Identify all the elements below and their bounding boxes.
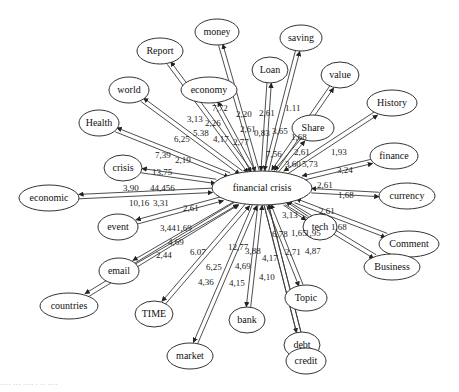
edge-to-money	[223, 44, 259, 170]
edge-weight-label: 4,17	[213, 134, 229, 144]
node-saving: saving	[280, 25, 322, 51]
node-label: financial crisis	[233, 182, 292, 193]
edge-weight-label: 4,69	[235, 261, 251, 271]
node-label: Topic	[295, 292, 318, 303]
edge-weight-label: 0,83	[254, 128, 270, 138]
edge-weight-label: 4,87	[305, 246, 321, 256]
edge-weight-label: 4,10	[259, 272, 275, 282]
node-label: market	[176, 350, 204, 361]
node-crisis: crisis	[104, 155, 142, 181]
edge-weight-label: 3,13	[187, 114, 203, 124]
node-label: Comment	[389, 238, 429, 249]
figure-caption: ···· ··· ···· · ·· ····	[0, 380, 459, 392]
edge-weight-label: 2,20	[236, 109, 252, 119]
node-label: bank	[237, 314, 256, 325]
node-money: money	[195, 19, 239, 45]
edge-from-time	[165, 206, 249, 304]
node-label: money	[203, 26, 230, 37]
edge-weight-label: 3,60	[285, 159, 301, 169]
node-label: countries	[51, 300, 88, 311]
edge-weight-label: 2,61	[317, 180, 333, 190]
edge-weight-label: 2,61	[319, 206, 335, 216]
node-topic: Topic	[285, 285, 327, 311]
edge-weight-label: 2,44	[156, 250, 172, 260]
node-event: event	[98, 214, 138, 240]
edge-weight-label: 2,77	[233, 137, 249, 147]
edge-weight-label: 4,17	[262, 253, 278, 263]
node-label: event	[107, 221, 129, 232]
node-email: email	[99, 258, 139, 284]
node-label: Business	[374, 261, 410, 272]
edge-weight-label: 3,90	[123, 183, 139, 193]
node-label: crisis	[112, 162, 133, 173]
node-label: economic	[30, 192, 69, 203]
node-label: world	[117, 84, 140, 95]
node-business: Business	[364, 254, 420, 280]
node-label: economy	[191, 84, 228, 95]
edge-weight-label: 3,24	[337, 165, 353, 175]
edge-weight-label: 3,13	[282, 210, 298, 220]
edge-weight-label: 1,68	[331, 222, 347, 232]
node-bank: bank	[229, 307, 265, 333]
node-credit: credit	[286, 348, 326, 374]
node-label: credit	[295, 355, 318, 366]
edge-weight-label: 3,31	[153, 198, 169, 208]
node-label: saving	[288, 32, 314, 43]
edge-weight-label: 2,71	[285, 247, 301, 257]
node-label: currency	[390, 190, 425, 201]
edge-weight-label: 1,68	[291, 132, 307, 142]
node-economy: economy	[181, 77, 237, 103]
node-health: Health	[79, 110, 119, 136]
edge-weight-label: 6,25	[206, 262, 222, 272]
node-loan: Loan	[252, 57, 288, 83]
node-label: History	[377, 97, 407, 108]
edge-weight-label: 6,25	[174, 134, 190, 144]
node-label: Loan	[260, 64, 281, 75]
edge-weight-label: 3,88	[245, 246, 261, 256]
edge-weight-label: 4,36	[198, 277, 214, 287]
node-history: History	[367, 90, 417, 116]
edge-weight-label: 10,16	[129, 198, 150, 208]
edge-weight-label: 1,93	[331, 147, 347, 157]
edge-weight-label: 7,72	[212, 103, 228, 113]
edge-weight-label: 2,19	[175, 155, 191, 165]
edge-weight-label: 13,75	[152, 167, 173, 177]
node-report: Report	[137, 38, 183, 64]
edge-weight-label: 6.07	[190, 247, 206, 257]
edge-weight-label: 1,68	[338, 190, 354, 200]
network-diagram: moneyReporteconomyLoansavingvalueHistory…	[0, 0, 459, 392]
node-label: value	[329, 69, 351, 80]
edge-weight-label: 44,456	[150, 183, 175, 193]
node-label: Report	[146, 45, 173, 56]
edge-weight-label: 2,61	[294, 147, 310, 157]
edge-weight-label: 4,69	[168, 237, 184, 247]
node-center: financial crisis	[212, 171, 312, 205]
node-label: Health	[86, 117, 113, 128]
node-value: value	[321, 62, 359, 88]
node-economic: economic	[19, 185, 79, 211]
node-world: world	[109, 77, 149, 103]
node-countries: countries	[40, 293, 98, 319]
node-label: finance	[379, 150, 409, 161]
edge-weight-label: 3,65	[272, 126, 288, 136]
edge-from-email	[135, 205, 238, 265]
edge-weight-label: 2,26	[205, 118, 221, 128]
edge-weight-label: 1,95	[305, 228, 321, 238]
node-label: TIME	[142, 308, 166, 319]
node-finance: finance	[370, 143, 418, 169]
edge-weight-label: 5,73	[302, 159, 318, 169]
edge-weight-label: 7,39	[155, 150, 171, 160]
edge-weight-label: 1.11	[285, 103, 300, 113]
edge-weight-label: 4,15	[229, 278, 245, 288]
edge-weight-label: 2,61	[183, 203, 199, 213]
edge-weight-label: 2,61	[259, 108, 275, 118]
node-time: TIME	[135, 301, 173, 327]
node-market: market	[167, 343, 213, 369]
edge-weight-label: 5.38	[193, 128, 209, 138]
node-label: email	[108, 265, 130, 276]
node-currency: currency	[379, 183, 435, 209]
edge-weight-label: 3,44	[160, 223, 176, 233]
node-comment: Comment	[379, 231, 439, 257]
edge-weight-label: 1,69	[176, 223, 192, 233]
edge-weight-label: 7,56	[266, 149, 282, 159]
